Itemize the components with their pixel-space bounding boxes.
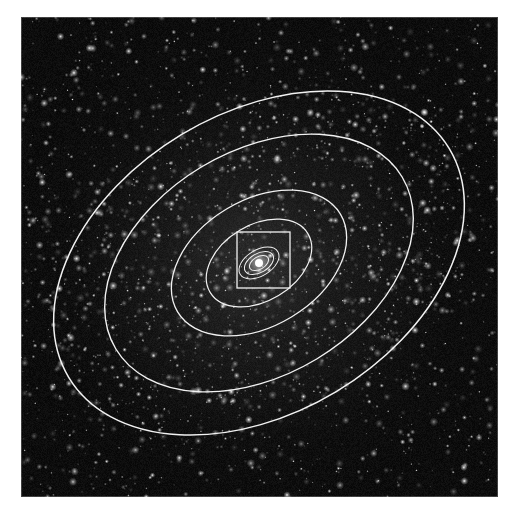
sky-image-plate: [21, 17, 498, 497]
star-field-canvas: [21, 17, 498, 497]
figure-root: [0, 0, 520, 516]
